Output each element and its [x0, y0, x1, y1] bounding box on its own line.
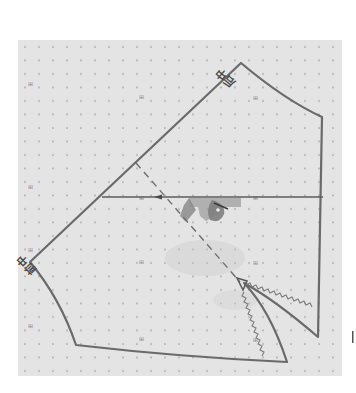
- grid-mark: ⊞: [28, 322, 33, 329]
- grid-mark: ⊞: [139, 93, 144, 100]
- grid-mark: ⊞: [139, 258, 144, 265]
- grid-paper: [18, 40, 342, 376]
- grid-mark: ⊞: [28, 183, 33, 190]
- grid-mark: ⊞: [28, 246, 33, 253]
- pattern-drawing: ⊞ ⊞ ⊞ ⊞ ⊞ ⊞ ⊞ ⊞ ⊞ ⊞ ⊞ ⊞: [0, 0, 356, 393]
- grid-mark: ⊞: [28, 80, 33, 87]
- pattern-diagram: ⊞ ⊞ ⊞ ⊞ ⊞ ⊞ ⊞ ⊞ ⊞ ⊞ ⊞ ⊞: [0, 0, 356, 393]
- grid-mark: ⊞: [253, 259, 258, 266]
- grid-mark: ⊞: [253, 336, 258, 343]
- edge-mark: [352, 331, 354, 343]
- grid-mark: ⊞: [139, 335, 144, 342]
- grid-mark: ⊞: [253, 94, 258, 101]
